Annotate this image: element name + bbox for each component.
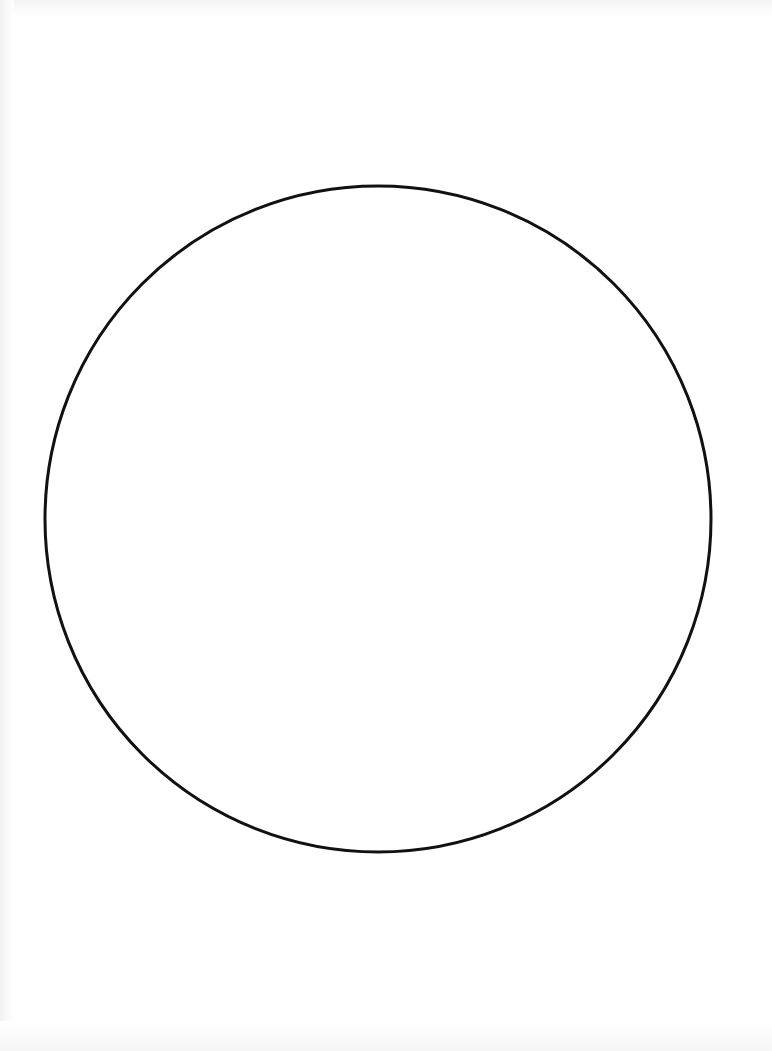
page [0,0,772,1051]
circle-shape [45,186,711,852]
diagram-canvas [0,0,772,1051]
